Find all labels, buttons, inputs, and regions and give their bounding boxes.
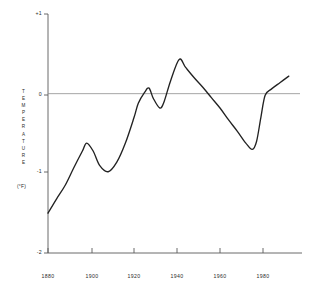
temperature-series-line bbox=[48, 59, 289, 213]
temperature-chart: +1 0 -1 -2 1880 1900 1920 1940 1960 1980… bbox=[0, 0, 310, 298]
x-tick-label-1960: 1960 bbox=[214, 274, 227, 279]
x-axis-ticks bbox=[48, 248, 263, 253]
y-tick-label-minus-one: -1 bbox=[30, 169, 42, 174]
y-axis-title-char: M bbox=[19, 102, 28, 109]
y-axis-title-char: P bbox=[19, 109, 28, 116]
y-axis-title-char: R bbox=[19, 152, 28, 159]
y-axis-title-char: T bbox=[19, 88, 28, 95]
y-axis-title-char: U bbox=[19, 145, 28, 152]
y-axis-title-char: R bbox=[19, 123, 28, 130]
x-tick-label-1900: 1900 bbox=[86, 274, 99, 279]
x-tick-label-1880: 1880 bbox=[42, 274, 55, 279]
y-axis-unit-label: (°F) bbox=[17, 183, 26, 189]
y-axis-ticks bbox=[44, 14, 48, 253]
y-axis-title-char: E bbox=[19, 95, 28, 102]
y-tick-label-minus-two: -2 bbox=[30, 250, 42, 255]
x-tick-label-1920: 1920 bbox=[128, 274, 141, 279]
y-axis-title: TEMPERATURE bbox=[19, 88, 28, 166]
y-tick-label-plus-one: +1 bbox=[30, 11, 42, 16]
chart-plot-area bbox=[0, 0, 310, 298]
y-axis-title-char: E bbox=[19, 116, 28, 123]
x-tick-label-1980: 1980 bbox=[257, 274, 270, 279]
y-axis-title-char: T bbox=[19, 138, 28, 145]
y-axis-title-char: A bbox=[19, 131, 28, 138]
y-tick-label-zero: 0 bbox=[30, 92, 42, 97]
x-tick-label-1940: 1940 bbox=[171, 274, 184, 279]
y-axis-title-char: E bbox=[19, 159, 28, 166]
